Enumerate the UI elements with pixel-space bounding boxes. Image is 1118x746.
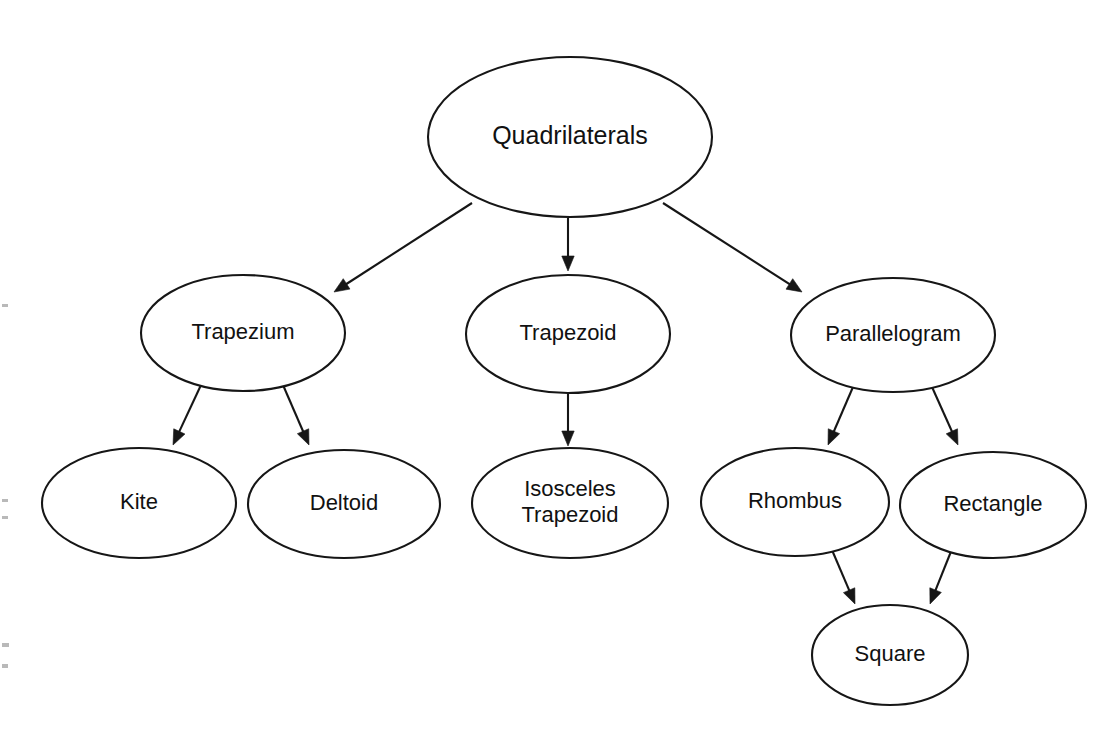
edge-rectangle-to-square: [930, 549, 952, 604]
arrowhead-icon: [843, 588, 855, 604]
node-label-line: Kite: [120, 489, 158, 514]
node-label: Kite: [120, 489, 158, 514]
node-square[interactable]: Square: [812, 605, 968, 705]
node-parallelogram[interactable]: Parallelogram: [791, 278, 995, 392]
node-label: Quadrilaterals: [492, 121, 648, 149]
node-label: Trapezium: [191, 319, 294, 344]
node-label: Parallelogram: [825, 321, 961, 346]
arrowhead-icon: [173, 429, 185, 445]
scan-artifact-mark: [2, 516, 8, 519]
arrowhead-icon: [562, 431, 574, 446]
arrowhead-icon: [297, 429, 309, 445]
edge-parallelogram-to-rhombus: [828, 387, 853, 445]
node-label: Square: [855, 641, 926, 666]
node-label-line: Trapezium: [191, 319, 294, 344]
edge-line: [932, 387, 953, 434]
node-label-line: Square: [855, 641, 926, 666]
node-label-line: Quadrilaterals: [492, 121, 648, 149]
node-label: Rhombus: [748, 488, 842, 513]
arrowhead-icon: [828, 429, 840, 445]
edge-line: [832, 550, 850, 593]
node-label-line: Deltoid: [310, 490, 378, 515]
arrowhead-icon: [786, 279, 802, 292]
edge-line: [663, 203, 792, 286]
node-trapezium[interactable]: Trapezium: [141, 275, 345, 391]
scan-artifact-mark: [2, 643, 9, 647]
arrowhead-icon: [562, 256, 574, 271]
node-label: IsoscelesTrapezoid: [521, 475, 618, 527]
node-label-line: Rhombus: [748, 488, 842, 513]
edge-quadrilaterals-to-trapezium: [334, 203, 472, 292]
edge-line: [178, 385, 201, 434]
node-rectangle[interactable]: Rectangle: [900, 452, 1086, 558]
diagram-canvas: QuadrilateralsTrapeziumTrapezoidParallel…: [0, 0, 1118, 746]
scan-artifact-mark: [2, 304, 8, 307]
node-isosceles-trapezoid[interactable]: IsoscelesTrapezoid: [472, 448, 668, 558]
edge-line: [344, 203, 472, 285]
scan-artifact-mark: [2, 664, 8, 668]
edge-quadrilaterals-to-trapezoid: [562, 218, 574, 271]
quadrilaterals-hierarchy-diagram: QuadrilateralsTrapeziumTrapezoidParallel…: [0, 0, 1118, 746]
node-label-line: Trapezoid: [519, 320, 616, 345]
node-trapezoid[interactable]: Trapezoid: [466, 275, 670, 393]
edge-quadrilaterals-to-parallelogram: [663, 203, 802, 292]
edge-line: [833, 387, 853, 434]
node-rhombus[interactable]: Rhombus: [701, 448, 889, 556]
edge-rhombus-to-square: [832, 550, 855, 604]
arrowhead-icon: [334, 279, 350, 292]
arrowhead-icon: [946, 429, 958, 445]
edge-trapezium-to-deltoid: [283, 385, 309, 445]
node-label-line: Isosceles: [524, 475, 616, 500]
nodes-layer: QuadrilateralsTrapeziumTrapezoidParallel…: [42, 57, 1086, 705]
edge-parallelogram-to-rectangle: [932, 387, 958, 445]
scan-artifact-mark: [2, 499, 8, 502]
edge-line: [934, 549, 952, 593]
node-label-line: Trapezoid: [521, 502, 618, 527]
node-label-line: Parallelogram: [825, 321, 961, 346]
node-kite[interactable]: Kite: [42, 448, 236, 558]
edge-trapezoid-to-isosceles-trapezoid: [562, 393, 574, 446]
node-deltoid[interactable]: Deltoid: [248, 450, 440, 558]
node-label-line: Rectangle: [943, 491, 1042, 516]
edge-trapezium-to-kite: [173, 385, 201, 445]
node-label: Trapezoid: [519, 320, 616, 345]
node-quadrilaterals[interactable]: Quadrilaterals: [428, 57, 712, 217]
node-label: Rectangle: [943, 491, 1042, 516]
arrowhead-icon: [930, 588, 942, 604]
node-label: Deltoid: [310, 490, 378, 515]
scan-artifacts: [2, 304, 9, 668]
edge-line: [283, 385, 304, 434]
